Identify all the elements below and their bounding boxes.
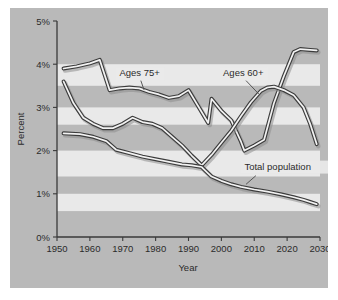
population-percent-line-chart: 195019601970198019902000201020202030 0%1…	[10, 8, 328, 288]
x-tick-label: 1990	[178, 243, 199, 254]
y-tick-label: 0%	[36, 232, 50, 243]
y-axis-title: Percent	[15, 112, 26, 145]
x-tick-label: 1970	[112, 243, 133, 254]
background-band-1	[57, 107, 320, 124]
figure-panel: 195019601970198019902000201020202030 0%1…	[10, 8, 328, 288]
y-tick-label: 2%	[36, 145, 50, 156]
y-tick-label: 4%	[36, 59, 50, 70]
x-tick-label: 1960	[79, 243, 100, 254]
y-tick-label: 1%	[36, 188, 50, 199]
x-tick-label: 2010	[244, 243, 265, 254]
x-tick-label: 1950	[46, 243, 67, 254]
x-axis-tick-labels: 195019601970198019902000201020202030	[46, 243, 328, 254]
series-label-2: Ages 60+	[223, 67, 264, 78]
x-tick-label: 2030	[309, 243, 328, 254]
y-tick-label: 5%	[36, 16, 50, 27]
x-axis-title: Year	[178, 262, 197, 273]
x-tick-label: 2020	[277, 243, 298, 254]
y-tick-label: 3%	[36, 102, 50, 113]
x-tick-label: 2000	[211, 243, 232, 254]
series-label-3: Total population	[244, 161, 311, 172]
series-leader-line-3	[246, 176, 256, 185]
x-tick-label: 1980	[145, 243, 166, 254]
y-axis-tick-labels: 0%1%2%3%4%5%	[36, 16, 50, 243]
series-label-1: Ages 75+	[119, 67, 160, 78]
